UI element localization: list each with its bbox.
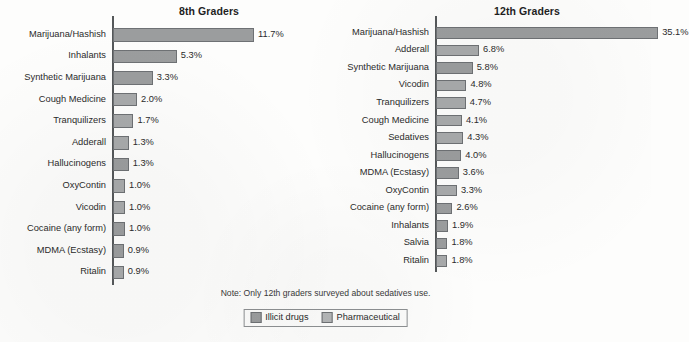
- value-label-8th-3: 2.0%: [141, 95, 162, 104]
- bar-8th-5: [113, 136, 129, 150]
- bar-8th-11: [113, 266, 124, 280]
- category-label-8th-0: Marijuana/Hashish: [29, 30, 106, 39]
- plot-area-12th-graders: Marijuana/Hashish35.1%Adderall6.8%Synthe…: [325, 0, 651, 300]
- value-label-8th-1: 5.3%: [181, 51, 202, 60]
- bar-8th-4: [113, 114, 133, 128]
- value-label-12th-9: 3.3%: [461, 186, 482, 195]
- bar-8th-9: [113, 222, 125, 236]
- category-label-8th-9: Cocaine (any form): [27, 224, 106, 233]
- category-label-8th-1: Inhalants: [68, 51, 106, 60]
- bar-12th-1: [436, 45, 479, 57]
- bar-12th-12: [436, 238, 447, 250]
- legend-item-pharmaceutical: Pharmaceutical: [322, 312, 400, 323]
- category-label-8th-5: Adderall: [72, 138, 106, 147]
- bar-12th-10: [436, 203, 452, 215]
- category-label-12th-0: Marijuana/Hashish: [352, 28, 429, 37]
- legend-label-illicit: Illicit drugs: [265, 313, 308, 322]
- category-label-12th-6: Sedatives: [388, 133, 429, 142]
- value-label-8th-11: 0.9%: [128, 267, 149, 276]
- category-label-12th-3: Vicodin: [399, 80, 429, 89]
- category-label-8th-6: Hallucinogens: [48, 159, 106, 168]
- value-label-12th-7: 4.0%: [465, 151, 486, 160]
- bar-12th-13: [436, 255, 447, 267]
- value-label-8th-7: 1.0%: [129, 181, 150, 190]
- value-label-12th-11: 1.9%: [452, 221, 473, 230]
- legend-label-pharmaceutical: Pharmaceutical: [337, 313, 400, 322]
- chart-panel-12th-graders: 12th Graders Marijuana/Hashish35.1%Adder…: [325, 0, 651, 300]
- legend-swatch-pharmaceutical-icon: [322, 312, 333, 323]
- bar-8th-2: [113, 71, 153, 85]
- category-label-12th-8: MDMA (Ecstasy): [360, 168, 429, 177]
- value-label-8th-8: 1.0%: [129, 203, 150, 212]
- category-label-12th-1: Adderall: [395, 45, 429, 54]
- value-label-8th-4: 1.7%: [137, 116, 158, 125]
- bar-12th-2: [436, 62, 473, 74]
- category-label-12th-4: Tranquilizers: [376, 98, 429, 107]
- category-label-12th-11: Inhalants: [391, 221, 429, 230]
- value-label-12th-6: 4.3%: [467, 133, 488, 142]
- category-label-8th-7: OxyContin: [63, 181, 106, 190]
- category-label-8th-10: MDMA (Ecstasy): [37, 246, 106, 255]
- bar-8th-10: [113, 244, 124, 258]
- value-label-12th-12: 1.8%: [451, 238, 472, 247]
- category-label-8th-3: Cough Medicine: [39, 95, 106, 104]
- category-label-12th-9: OxyContin: [386, 186, 429, 195]
- value-label-12th-5: 4.1%: [466, 116, 487, 125]
- category-label-8th-4: Tranquilizers: [53, 116, 106, 125]
- category-label-8th-2: Synthetic Marijuana: [24, 73, 106, 82]
- value-label-8th-9: 1.0%: [129, 224, 150, 233]
- bar-12th-6: [436, 132, 463, 144]
- value-label-12th-2: 5.8%: [477, 63, 498, 72]
- category-label-12th-5: Cough Medicine: [362, 116, 429, 125]
- bar-12th-7: [436, 150, 461, 162]
- bar-12th-0: [436, 27, 658, 39]
- bar-8th-3: [113, 93, 137, 107]
- value-label-12th-10: 2.6%: [456, 203, 477, 212]
- value-label-12th-8: 3.6%: [463, 168, 484, 177]
- chart-legend: Illicit drugs Pharmaceutical: [243, 309, 408, 327]
- bar-12th-9: [436, 185, 457, 197]
- value-label-8th-10: 0.9%: [128, 246, 149, 255]
- bar-8th-0: [113, 28, 254, 42]
- bar-8th-7: [113, 179, 125, 193]
- value-label-12th-13: 1.8%: [451, 256, 472, 265]
- value-label-8th-6: 1.3%: [133, 159, 154, 168]
- category-label-12th-2: Synthetic Marijuana: [347, 63, 429, 72]
- category-label-8th-11: Ritalin: [80, 267, 106, 276]
- bar-12th-4: [436, 97, 466, 109]
- value-label-12th-3: 4.8%: [470, 80, 491, 89]
- value-label-8th-5: 1.3%: [133, 138, 154, 147]
- value-label-8th-2: 3.3%: [157, 73, 178, 82]
- bar-12th-8: [436, 167, 459, 179]
- value-label-12th-1: 6.8%: [483, 45, 504, 54]
- bar-12th-3: [436, 80, 466, 92]
- bar-12th-11: [436, 220, 448, 232]
- category-label-12th-12: Salvia: [404, 238, 429, 247]
- value-label-12th-4: 4.7%: [470, 98, 491, 107]
- value-label-8th-0: 11.7%: [258, 30, 284, 39]
- plot-area-8th-graders: Marijuana/Hashish11.7%Inhalants5.3%Synth…: [0, 0, 326, 300]
- category-label-12th-10: Cocaine (any form): [350, 203, 429, 212]
- bar-8th-1: [113, 50, 177, 64]
- chart-panel-8th-graders: 8th Graders Marijuana/Hashish11.7%Inhala…: [0, 0, 326, 300]
- legend-swatch-illicit-icon: [250, 312, 261, 323]
- bar-12th-5: [436, 115, 462, 127]
- value-label-12th-0: 35.1%: [662, 28, 688, 37]
- bar-8th-6: [113, 158, 129, 172]
- chart-note: Note: Only 12th graders surveyed about s…: [0, 288, 651, 298]
- category-label-8th-8: Vicodin: [76, 203, 106, 212]
- bar-8th-8: [113, 201, 125, 215]
- category-label-12th-7: Hallucinogens: [371, 151, 429, 160]
- category-label-12th-13: Ritalin: [403, 256, 429, 265]
- legend-item-illicit-drugs: Illicit drugs: [250, 312, 308, 323]
